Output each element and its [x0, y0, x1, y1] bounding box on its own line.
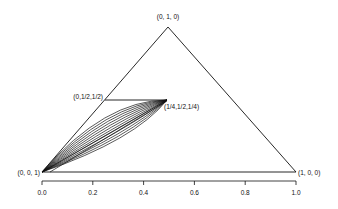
- x-tick-label: 1.0: [291, 189, 300, 196]
- x-tick-label: 0.2: [88, 189, 97, 196]
- ternary-diagram: (0, 1, 0) (0, 0, 1) (1, 0, 0) (0,1/2,1/2…: [0, 0, 338, 209]
- vertex-label-right: (1, 0, 0): [298, 169, 320, 177]
- point-label-inner: (1/4,1/2,1/4): [164, 103, 199, 111]
- point-label-edge-mid: (0,1/2,1/2): [73, 93, 103, 101]
- x-axis-ticks: 0.00.20.40.60.81.0: [37, 181, 300, 196]
- x-tick-label: 0.4: [139, 189, 148, 196]
- x-tick-label: 0.6: [190, 189, 199, 196]
- x-tick-label: 0.8: [241, 189, 250, 196]
- vertex-label-left: (0, 0, 1): [18, 169, 40, 177]
- curve-family: [42, 100, 167, 172]
- x-tick-label: 0.0: [37, 189, 46, 196]
- vertex-label-top: (0, 1, 0): [157, 13, 179, 21]
